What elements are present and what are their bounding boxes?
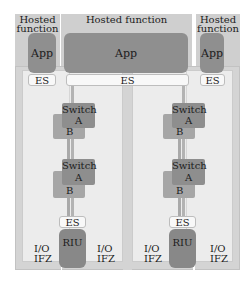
plane-b-label: B [176, 185, 183, 196]
switch-plane-a: Switch A [62, 103, 95, 128]
riu-left: RIU [59, 229, 86, 268]
es-label: ES [205, 75, 219, 86]
end-system-left: ES [28, 74, 56, 86]
es-label: ES [175, 217, 189, 228]
es-label: ES [120, 75, 134, 86]
cabinet-divider [123, 70, 132, 270]
ifz-text: IFZ [34, 254, 52, 264]
plane-a-label: A [172, 172, 205, 183]
app-label: App [201, 47, 223, 60]
end-system-center: ES [66, 74, 189, 86]
io-ifz-label: I/O IFZ [34, 244, 52, 264]
end-system-riu-left: ES [59, 216, 86, 228]
plane-a-label: A [172, 115, 205, 126]
app-block-center: App [64, 33, 188, 73]
riu-label: RIU [63, 237, 83, 268]
riu-right: RIU [169, 229, 196, 268]
io-ifz-label: I/O IFZ [97, 244, 115, 264]
plane-b-label: B [66, 185, 73, 196]
es-label: ES [35, 75, 49, 86]
switch-plane-a: Switch A [172, 159, 205, 185]
switch-label: Switch [172, 160, 205, 171]
end-system-right: ES [200, 74, 225, 86]
switch-label: Switch [172, 104, 205, 115]
io-ifz-label: I/O IFZ [144, 244, 162, 264]
app-label: App [31, 47, 53, 60]
io-ifz-label: I/O IFZ [210, 244, 228, 264]
switch-label: Switch [62, 104, 95, 115]
switch-label: Switch [62, 160, 95, 171]
app-label: App [115, 47, 137, 60]
switch-plane-a: Switch A [62, 159, 95, 185]
ifz-text: IFZ [210, 254, 228, 264]
hosted-function-label: Hosted function [196, 15, 240, 33]
app-block-left: App [28, 33, 56, 73]
hosted-function-label: Hosted function [15, 15, 60, 33]
ifz-text: IFZ [97, 254, 115, 264]
end-system-riu-right: ES [169, 216, 196, 228]
plane-a-label: A [62, 172, 95, 183]
app-block-right: App [200, 33, 224, 73]
es-label: ES [65, 217, 79, 228]
switch-plane-a: Switch A [172, 103, 205, 128]
plane-a-label: A [62, 115, 95, 126]
ifz-text: IFZ [144, 254, 162, 264]
riu-label: RIU [173, 237, 193, 268]
hosted-function-label: Hosted function [61, 15, 192, 24]
